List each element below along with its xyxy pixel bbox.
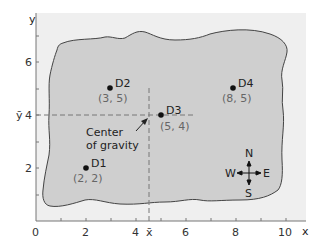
point-d4 (230, 85, 236, 91)
point-d1-label: D1 (91, 158, 106, 169)
point-d4-label: D4 (238, 78, 253, 89)
point-d1 (83, 165, 89, 171)
x-tick-8: 8 (232, 227, 239, 238)
y-axis-label: y (29, 14, 36, 25)
point-d2 (107, 85, 113, 91)
x-tick-10: 10 (278, 227, 292, 238)
center-of-gravity-label-line2: of gravity (86, 140, 139, 151)
point-d2-label: D2 (115, 78, 130, 89)
y-tick-6: 6 (25, 57, 32, 68)
y-mean-label: ȳ (16, 110, 23, 121)
compass-s-label: S (245, 188, 252, 199)
x-tick-2: 2 (82, 227, 89, 238)
point-d3-coord: (5, 4) (160, 121, 190, 132)
compass-n-label: N (245, 148, 253, 159)
x-tick-6: 6 (182, 227, 189, 238)
compass-e-label: E (263, 168, 270, 179)
x-tick-4: 4 (132, 227, 139, 238)
x-axis-label: x (302, 226, 309, 237)
compass-w-label: W (225, 168, 236, 179)
point-d4-coord: (8, 5) (222, 93, 252, 104)
y-tick-2: 2 (25, 163, 32, 174)
x-mean-label: x̄ (146, 227, 153, 238)
point-d1-coord: (2, 2) (73, 173, 103, 184)
center-of-gravity-label-line1: Center (86, 127, 123, 138)
x-tick-0: 0 (32, 227, 39, 238)
y-tick-4: 4 (25, 110, 32, 121)
point-d3-label: D3 (166, 105, 181, 116)
point-d2-coord: (3, 5) (98, 93, 128, 104)
point-d3 (158, 112, 164, 118)
